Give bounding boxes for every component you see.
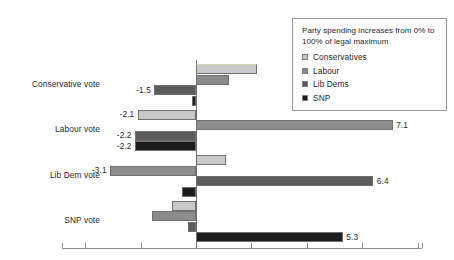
bar-conservatives [196, 155, 226, 165]
legend-swatch-icon [302, 81, 308, 87]
legend-entry-list: ConservativesLabourLib DemsSNP [302, 52, 438, 103]
legend-swatch-icon [302, 54, 308, 60]
legend-entry: SNP [302, 93, 438, 103]
bar-lib-dems [154, 85, 196, 95]
bar-conservatives [138, 110, 196, 120]
legend-entry-label: Conservatives [313, 52, 367, 62]
bar-snp [135, 141, 196, 151]
category-label-labour-vote: Labour vote [2, 124, 100, 134]
legend-entry: Conservatives [302, 52, 438, 62]
x-axis-end-tick [62, 243, 63, 248]
bar-snp [192, 96, 196, 106]
chart-legend: Party spending increases from 0% to 100%… [292, 18, 447, 111]
bar-value-label: -2.1 [120, 108, 135, 121]
legend-swatch-icon [302, 68, 308, 74]
bar-lib-dems [188, 222, 196, 232]
bar-value-label: -2.2 [117, 140, 132, 153]
chart-container: -1.5Conservative vote-2.17.1-2.2-2.2Labo… [0, 0, 454, 260]
bar-labour [152, 211, 196, 221]
zero-axis-line [196, 60, 197, 248]
bar-labour [110, 166, 196, 176]
legend-entry-label: SNP [313, 93, 330, 103]
x-axis-line [62, 248, 422, 249]
category-label-snp-vote: SNP vote [2, 215, 100, 225]
bar-value-label: 7.1 [396, 119, 408, 132]
x-axis-tick [418, 243, 419, 248]
bar-labour [196, 120, 393, 130]
bar-labour [196, 75, 229, 85]
bar-value-label: 6.4 [377, 175, 389, 188]
legend-entry: Labour [302, 66, 438, 76]
category-label-lib-dem-vote: Lib Dem vote [2, 170, 100, 180]
bar-snp [196, 232, 343, 242]
bar-snp [182, 187, 196, 197]
legend-swatch-icon [302, 95, 308, 101]
bar-value-label: -1.5 [136, 84, 151, 97]
legend-entry-label: Labour [313, 66, 339, 76]
category-label-conservative-vote: Conservative vote [2, 79, 100, 89]
legend-title: Party spending increases from 0% to 100%… [302, 26, 438, 47]
bar-conservatives [196, 64, 257, 74]
x-axis-tick [85, 243, 86, 248]
legend-entry: Lib Dems [302, 79, 438, 89]
bar-lib-dems [135, 131, 196, 141]
bar-value-label: 5.3 [346, 231, 358, 244]
bar-lib-dems [196, 176, 373, 186]
bar-conservatives [172, 201, 196, 211]
x-axis-tick [141, 243, 142, 248]
x-axis-tick [362, 243, 363, 248]
x-axis-tick [307, 243, 308, 248]
x-axis-tick [251, 243, 252, 248]
x-axis-end-tick [422, 243, 423, 248]
legend-entry-label: Lib Dems [313, 79, 349, 89]
